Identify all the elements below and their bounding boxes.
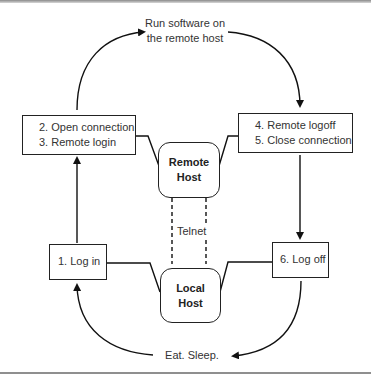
connector-login-local (106, 263, 160, 292)
step-log-off-box: 6. Log off (272, 242, 329, 278)
connector-open-remote (135, 136, 159, 166)
step-3-label: 3. Remote login (39, 135, 135, 150)
step-1-label: 1. Log in (58, 254, 106, 269)
arrow-to-login (77, 285, 153, 355)
remote-host-line-1: Remote (169, 155, 209, 170)
step-4-label: 4. Remote logoff (255, 118, 352, 133)
remote-host-node: Remote Host (158, 142, 220, 198)
run-software-line-2: the remote host (140, 31, 230, 46)
run-software-label: Run software on the remote host (140, 16, 230, 46)
connector-logoff-local (220, 262, 272, 292)
local-host-line-2: Host (178, 296, 202, 311)
arrow-to-eat-sleep (233, 281, 301, 356)
connector-close-remote (219, 136, 238, 166)
arrow-to-run-software (77, 32, 144, 110)
step-open-connection-box: 2. Open connection 3. Remote login (22, 115, 136, 155)
local-host-node: Local Host (160, 268, 221, 323)
step-5-label: 5. Close connection (255, 133, 352, 148)
telnet-session-diagram: Run software on the remote host 2. Open … (0, 0, 371, 380)
step-close-connection-box: 4. Remote logoff 5. Close connection (238, 113, 353, 153)
arrow-to-remote-logoff (228, 32, 300, 106)
step-2-label: 2. Open connection (39, 120, 135, 135)
run-software-line-1: Run software on (140, 16, 230, 31)
local-host-line-1: Local (176, 281, 205, 296)
step-log-in-box: 1. Log in (49, 244, 107, 280)
telnet-label: Telnet (176, 224, 207, 239)
remote-host-line-2: Host (177, 170, 201, 185)
eat-sleep-label: Eat. Sleep. (156, 348, 228, 363)
step-6-label: 6. Log off (280, 252, 328, 267)
bottom-border (0, 372, 371, 374)
